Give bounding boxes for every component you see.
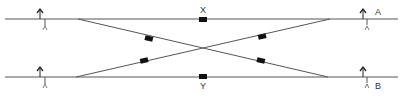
label-x: X (200, 6, 206, 15)
marker-y (199, 74, 207, 79)
label-track-b: B (375, 82, 381, 91)
marker-diagonal-lower-right (256, 57, 265, 64)
marker-diagonal-lower-left (140, 57, 149, 64)
marker-diagonal-upper-right (258, 33, 267, 40)
label-y: Y (200, 82, 206, 91)
receiver-icon (43, 84, 47, 88)
receiver-icon (365, 84, 369, 88)
receiver-icon (365, 26, 369, 30)
marker-x (199, 17, 207, 22)
label-track-a: A (375, 8, 381, 17)
receiver-icon (43, 26, 47, 30)
